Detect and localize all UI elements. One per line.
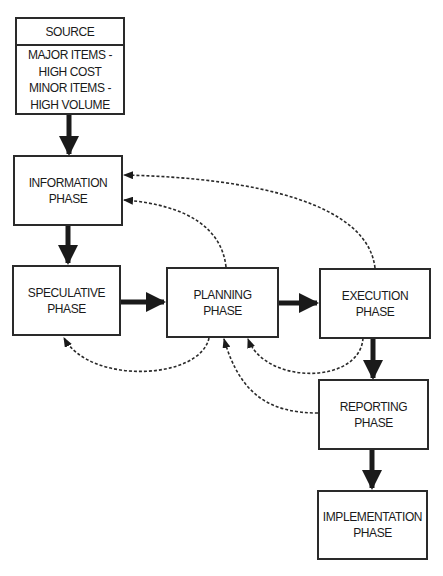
execution-phase-box: EXECUTION PHASE xyxy=(319,268,431,339)
implementation-phase-box: IMPLEMENTATION PHASE xyxy=(317,490,428,560)
feedback-execution-to-planning xyxy=(248,338,363,373)
planning-phase-box: PLANNING PHASE xyxy=(166,267,279,338)
node-label: PHASE xyxy=(353,525,392,541)
speculative-phase-box: SPECULATIVE PHASE xyxy=(12,265,121,336)
source-line: MAJOR ITEMS - xyxy=(28,47,112,64)
node-label: PHASE xyxy=(354,415,393,431)
node-label: IMPLEMENTATION xyxy=(323,509,422,525)
node-label: PHASE xyxy=(356,304,395,320)
feedback-planning-to-speculative xyxy=(64,338,209,371)
information-phase-box: INFORMATION PHASE xyxy=(13,155,123,226)
reporting-phase-box: REPORTING PHASE xyxy=(318,379,429,450)
source-line: MINOR ITEMS - xyxy=(28,80,112,97)
node-label: PHASE xyxy=(47,301,86,317)
feedback-planning-to-information xyxy=(124,200,226,267)
source-line: HIGH VOLUME xyxy=(28,97,112,114)
source-header: SOURCE xyxy=(17,19,123,46)
node-label: INFORMATION xyxy=(29,175,108,191)
source-box: SOURCE MAJOR ITEMS - HIGH COST MINOR ITE… xyxy=(15,17,125,115)
feedback-reporting-to-planning xyxy=(224,339,318,413)
node-label: PLANNING xyxy=(193,287,251,303)
node-label: PHASE xyxy=(49,191,88,207)
node-label: EXECUTION xyxy=(342,288,408,304)
feedback-execution-to-information xyxy=(124,175,375,268)
node-label: PHASE xyxy=(203,303,242,319)
node-label: REPORTING xyxy=(340,399,408,415)
source-line: HIGH COST xyxy=(28,64,112,81)
source-body: MAJOR ITEMS - HIGH COST MINOR ITEMS - HI… xyxy=(28,46,112,113)
node-label: SPECULATIVE xyxy=(28,285,105,301)
